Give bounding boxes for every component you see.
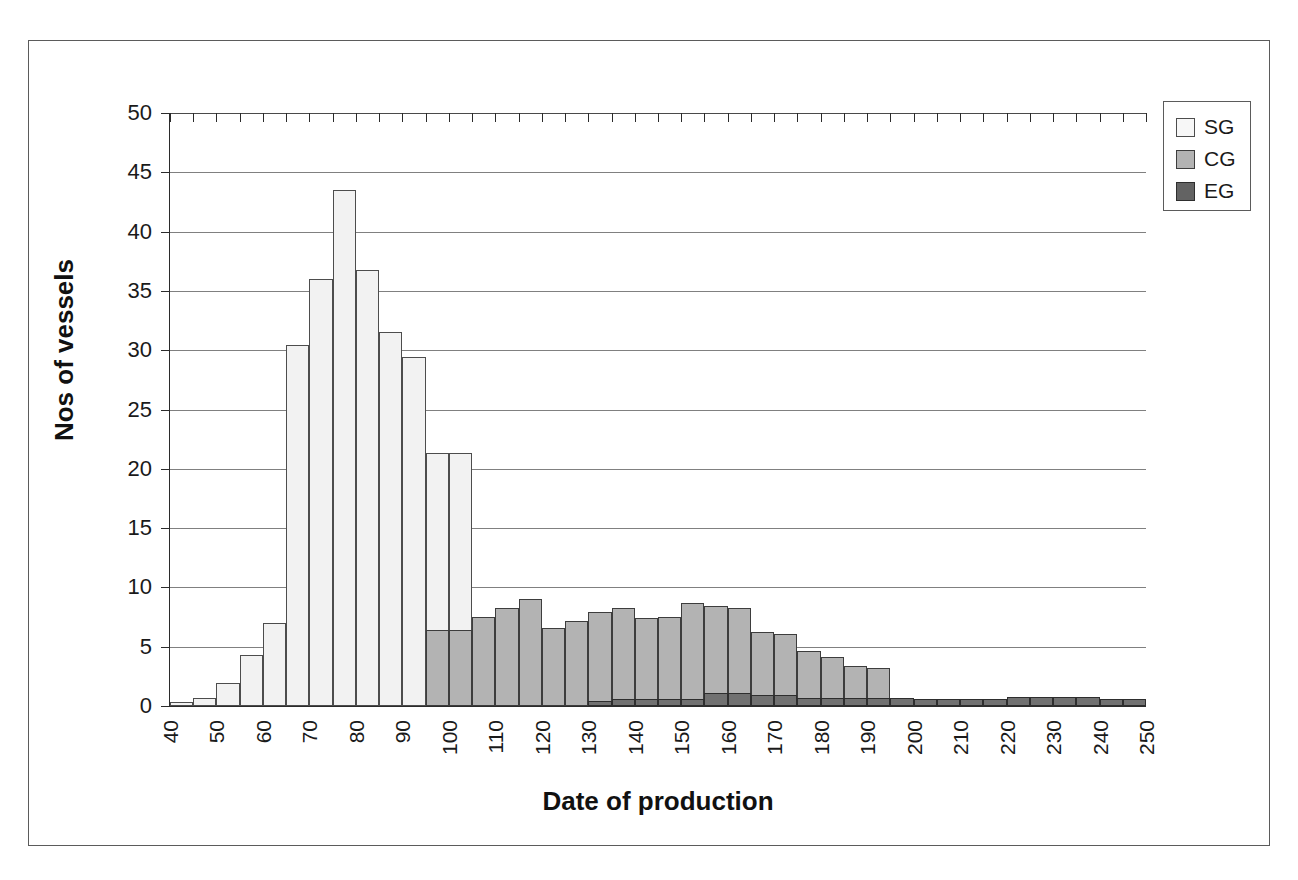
x-axis-tick-mark: [1053, 113, 1054, 122]
x-axis-tick-mark: [960, 113, 961, 122]
x-axis-tick-label: 140: [624, 720, 648, 755]
y-axis-tick-label: 35: [92, 278, 152, 304]
bar-eg: [960, 699, 983, 706]
x-axis-tick-mark: [914, 113, 915, 122]
x-axis-tick-label: 50: [205, 720, 229, 743]
x-axis-tick-mark: [426, 113, 427, 122]
bar-eg: [588, 701, 611, 706]
bar-eg: [867, 698, 890, 706]
x-axis-title: Date of production: [170, 786, 1146, 817]
y-axis-tick-label: 10: [92, 574, 152, 600]
bar-eg: [821, 698, 844, 706]
bar-sg: [263, 623, 286, 706]
x-axis-tick-mark: [681, 113, 682, 122]
bar-cg: [612, 608, 635, 706]
bar-eg: [1007, 697, 1030, 706]
bar-cg: [588, 612, 611, 706]
bar-eg: [612, 699, 635, 706]
x-axis-tick-label: 160: [717, 720, 741, 755]
x-axis-tick-mark: [797, 113, 798, 122]
bar-eg: [681, 699, 704, 706]
y-axis-tick-label: 40: [92, 219, 152, 245]
x-axis-tick-label: 80: [345, 720, 369, 743]
x-axis-tick-mark: [309, 113, 310, 122]
y-axis-tick-mark: [161, 469, 170, 470]
bar-eg: [1053, 697, 1076, 706]
x-axis-tick-mark: [170, 113, 171, 122]
bar-eg: [983, 699, 1006, 706]
x-axis-tick-label: 70: [298, 720, 322, 743]
x-axis-tick-label: 130: [577, 720, 601, 755]
y-axis-tick-label: 0: [92, 693, 152, 719]
y-axis-tick-mark: [161, 113, 170, 114]
bar-cg: [495, 608, 518, 706]
bar-cg: [658, 617, 681, 706]
y-axis-title-text: Nos of vessels: [49, 259, 80, 441]
bar-sg: [402, 357, 425, 706]
bar-sg: [193, 698, 216, 706]
bar-sg: [333, 190, 356, 706]
y-axis-tick-label: 15: [92, 515, 152, 541]
x-axis-tick-mark: [937, 113, 938, 122]
legend-item-sg: SG: [1176, 111, 1250, 143]
x-axis-tick-mark: [867, 113, 868, 122]
x-axis-tick-mark: [1030, 113, 1031, 122]
x-axis-tick-label: 250: [1135, 720, 1159, 755]
legend-label: EG: [1204, 179, 1234, 203]
x-axis-tick-mark: [495, 113, 496, 122]
legend-item-eg: EG: [1176, 175, 1250, 207]
bar-sg: [356, 270, 379, 706]
x-axis-tick-mark: [565, 113, 566, 122]
x-axis-tick-mark: [612, 113, 613, 122]
x-axis-tick-mark: [193, 113, 194, 122]
x-axis-tick-mark: [1007, 113, 1008, 122]
x-axis-tick-label: 170: [763, 720, 787, 755]
bar-eg: [704, 693, 727, 706]
x-axis-tick-label: 150: [670, 720, 694, 755]
y-axis-tick-mark: [161, 291, 170, 292]
bar-eg: [728, 693, 751, 706]
x-axis-tick-label: 60: [252, 720, 276, 743]
bar-eg: [774, 695, 797, 706]
bar-eg: [890, 698, 913, 706]
x-axis-tick-mark: [728, 113, 729, 122]
y-axis-title: Nos of vessels: [44, 180, 84, 520]
x-axis-tick-mark: [519, 113, 520, 122]
x-axis-tick-mark: [333, 113, 334, 122]
bar-eg: [658, 699, 681, 706]
x-axis-tick-label: 110: [484, 720, 508, 753]
x-axis-tick-mark: [542, 113, 543, 122]
x-axis-tick-mark: [1100, 113, 1101, 122]
y-axis-tick-mark: [161, 350, 170, 351]
x-axis-tick-mark: [216, 113, 217, 122]
gridline: [170, 232, 1146, 233]
legend-label: SG: [1204, 115, 1234, 139]
x-axis-tick-mark: [379, 113, 380, 122]
y-axis-tick-mark: [161, 647, 170, 648]
y-axis-tick-label: 25: [92, 397, 152, 423]
x-axis-tick-label: 190: [856, 720, 880, 755]
legend-label: CG: [1204, 147, 1236, 171]
bar-cg: [728, 608, 751, 706]
y-axis-tick-label: 45: [92, 159, 152, 185]
x-axis-tick-label: 180: [810, 720, 834, 755]
x-axis-line: [169, 706, 1146, 707]
plot-area: [170, 113, 1146, 706]
x-axis-tick-label: 240: [1089, 720, 1113, 755]
bar-cg: [565, 621, 588, 706]
y-axis-tick-mark: [161, 528, 170, 529]
x-axis-tick-label: 120: [531, 720, 555, 755]
bar-eg: [914, 699, 937, 706]
chart-legend: SGCGEG: [1163, 101, 1251, 211]
bar-cg: [542, 628, 565, 706]
y-axis-tick-mark: [161, 410, 170, 411]
bar-cg: [635, 618, 658, 706]
x-axis-tick-label: 230: [1042, 720, 1066, 755]
x-axis-tick-mark: [588, 113, 589, 122]
x-axis-tick-mark: [1076, 113, 1077, 122]
bar-sg: [309, 279, 332, 706]
x-axis-tick-mark: [1123, 113, 1124, 122]
x-axis-tick-label: 200: [903, 720, 927, 755]
bar-eg: [751, 695, 774, 706]
y-axis-tick-mark: [161, 232, 170, 233]
